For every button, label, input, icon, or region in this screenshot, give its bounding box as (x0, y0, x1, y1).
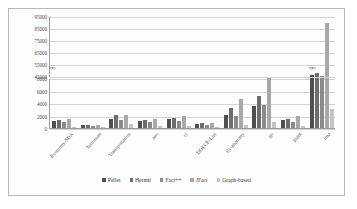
bar (210, 123, 214, 128)
gridline (50, 129, 335, 130)
bar-group-upper (222, 17, 251, 77)
legend-item[interactable]: Hermit (130, 177, 151, 183)
bar-upper (310, 75, 314, 77)
bar (167, 119, 171, 128)
bar (229, 108, 233, 128)
x-axis-label: Transportation (106, 131, 131, 158)
bar (252, 106, 256, 128)
y-axis-tick-label: 0 (45, 126, 48, 132)
bar (119, 120, 123, 128)
axis-break-marker-right: ≈≈ (309, 66, 315, 72)
y-axis-tick-label: 2000 (37, 114, 47, 120)
bar (286, 119, 290, 128)
bar (143, 120, 147, 128)
bar-group-upper (279, 17, 308, 77)
bar (124, 115, 128, 128)
bar (272, 122, 276, 128)
y-axis-tick-label: 95000 (35, 14, 47, 20)
bar (91, 126, 95, 128)
legend-swatch-icon (160, 178, 164, 182)
bar (182, 116, 186, 128)
bar (310, 78, 314, 128)
bar (67, 119, 71, 128)
bar (62, 122, 66, 128)
gridline (50, 77, 335, 78)
bar (187, 126, 191, 128)
bar (81, 125, 85, 128)
legend-swatch-icon (102, 178, 106, 182)
bar-group (193, 79, 222, 128)
bar-upper (315, 73, 319, 77)
legend-swatch-icon (217, 178, 221, 182)
legend-label: Hermit (135, 177, 151, 183)
legend-item[interactable]: Graph-based (217, 177, 251, 183)
bar-group-upper (164, 17, 193, 77)
bar (148, 122, 152, 128)
bar (109, 119, 113, 128)
chart-frame: 450005500065000750008500095000 020004000… (8, 8, 345, 196)
x-axis-label: DOLCE-Lite (194, 131, 217, 155)
bar-group-upper (136, 17, 165, 77)
bar-group (222, 79, 251, 128)
x-axis-label: plant (291, 131, 302, 143)
bar-upper (320, 76, 324, 77)
bar-group (250, 79, 279, 128)
x-axis-label: ima (322, 131, 332, 141)
legend-item[interactable]: Fact++ (160, 177, 181, 183)
bar (281, 120, 285, 128)
bar (320, 78, 324, 128)
bar-group-upper (79, 17, 108, 77)
bar (172, 118, 176, 128)
bar (244, 125, 248, 128)
bar-group (79, 79, 108, 128)
bar (325, 78, 329, 128)
bar (234, 116, 238, 128)
legend-label: Pellet (108, 177, 121, 183)
legend-swatch-icon (130, 178, 134, 182)
x-axis-labels: Economy-SDATerrorismTransportationaeoclD… (49, 131, 335, 177)
bar (296, 116, 300, 128)
y-axis-tick-label: 75000 (35, 38, 47, 44)
bar-group (279, 79, 308, 128)
bar (195, 124, 199, 128)
bar (200, 123, 204, 128)
x-axis-label: fly-anatomy (224, 131, 245, 154)
bar (57, 120, 61, 128)
bar (72, 127, 76, 128)
legend-item[interactable]: Pellet (102, 177, 120, 183)
bar (138, 121, 142, 129)
bar (101, 127, 105, 128)
bar (96, 125, 100, 128)
lower-axis-panel: 02000400060008000 (49, 79, 335, 129)
bar (158, 126, 162, 128)
legend-label: Fact++ (165, 177, 181, 183)
bar-group (136, 79, 165, 128)
bar (262, 105, 266, 128)
x-axis-label: go (266, 131, 274, 139)
x-axis-label: Terrorism (85, 131, 103, 150)
y-axis-tick-label: 85000 (35, 26, 47, 32)
axis-break-marker-left: ≈≈ (49, 66, 55, 72)
bar-group-upper (250, 17, 279, 77)
chart-legend: PelletHermitFact++JFactGraph-based (9, 177, 344, 183)
bar (205, 125, 209, 128)
bar (129, 124, 133, 128)
bar-upper (325, 23, 329, 77)
bar-group (50, 79, 79, 128)
bar (301, 126, 305, 128)
y-axis-tick-label: 55000 (35, 62, 47, 68)
bar (52, 121, 56, 128)
x-axis-label: Economy-SDA (48, 131, 74, 159)
y-axis-tick-label: 65000 (35, 50, 47, 56)
y-axis-tick-label: 4000 (37, 101, 47, 107)
bar (291, 122, 295, 128)
x-axis-label: cl (181, 131, 188, 138)
bar (315, 78, 319, 128)
bar (257, 96, 261, 128)
bar-group-upper (107, 17, 136, 77)
plot-area: 450005500065000750008500095000 020004000… (49, 17, 335, 129)
bar-group-upper (193, 17, 222, 77)
bar (224, 115, 228, 128)
legend-item[interactable]: JFact (190, 177, 207, 183)
bar-group (107, 79, 136, 128)
